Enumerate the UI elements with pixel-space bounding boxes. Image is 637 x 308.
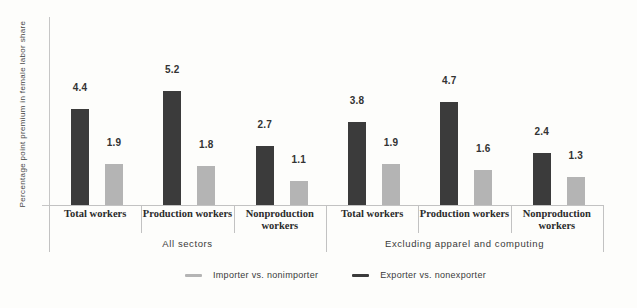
bar-value-label: 5.2 xyxy=(155,64,189,75)
bar-value-label: 2.7 xyxy=(248,119,282,130)
bar-importer xyxy=(105,164,123,205)
bar-exporter xyxy=(348,122,366,205)
bar-value-label: 1.8 xyxy=(189,139,223,150)
bar-importer xyxy=(382,164,400,205)
category-label: Production workers xyxy=(141,208,233,220)
category-label: Total workers xyxy=(49,208,141,220)
group-divider-line xyxy=(326,205,327,252)
group-label: All sectors xyxy=(49,238,326,249)
bar-value-label: 1.1 xyxy=(282,154,316,165)
legend-item-importer: Importer vs. nonimporter xyxy=(185,270,318,280)
category-label: Production workers xyxy=(418,208,510,220)
importer-swatch-icon xyxy=(185,274,202,277)
bar-importer xyxy=(474,170,492,205)
bar-value-label: 1.9 xyxy=(374,137,408,148)
category-label: Nonproduction workers xyxy=(511,208,603,231)
bar-value-label: 1.3 xyxy=(559,150,593,161)
bar-value-label: 3.8 xyxy=(340,95,374,106)
bar-value-label: 4.7 xyxy=(432,75,466,86)
bar-importer xyxy=(290,181,308,205)
group-divider-line xyxy=(49,205,50,252)
y-axis-line xyxy=(49,17,50,205)
bar-value-label: 1.6 xyxy=(466,143,500,154)
figure: Percentage point premium in female labor… xyxy=(0,0,637,308)
legend-item-exporter: Exporter vs. nonexporter xyxy=(352,270,486,280)
bar-importer xyxy=(197,166,215,205)
bar-exporter xyxy=(71,109,89,205)
legend-label-importer: Importer vs. nonimporter xyxy=(213,270,318,280)
category-label: Total workers xyxy=(326,208,418,220)
bar-value-label: 1.9 xyxy=(97,137,131,148)
group-divider-line xyxy=(603,205,604,252)
legend-label-exporter: Exporter vs. nonexporter xyxy=(380,270,486,280)
bar-exporter xyxy=(256,146,274,205)
bar-exporter xyxy=(440,102,458,205)
category-divider-line xyxy=(418,205,419,233)
legend: Importer vs. nonimporter Exporter vs. no… xyxy=(185,270,486,280)
category-divider-line xyxy=(234,205,235,233)
group-label: Excluding apparel and computing xyxy=(326,238,603,249)
category-divider-line xyxy=(141,205,142,233)
y-axis-origin-tick xyxy=(42,205,49,206)
category-divider-line xyxy=(511,205,512,233)
bar-importer xyxy=(567,177,585,205)
bar-exporter xyxy=(533,153,551,205)
exporter-swatch-icon xyxy=(352,274,369,277)
bar-value-label: 2.4 xyxy=(525,126,559,137)
y-axis-label: Percentage point premium in female labor… xyxy=(18,12,30,216)
category-label: Nonproduction workers xyxy=(234,208,326,231)
bar-value-label: 4.4 xyxy=(63,82,97,93)
bar-exporter xyxy=(163,91,181,205)
